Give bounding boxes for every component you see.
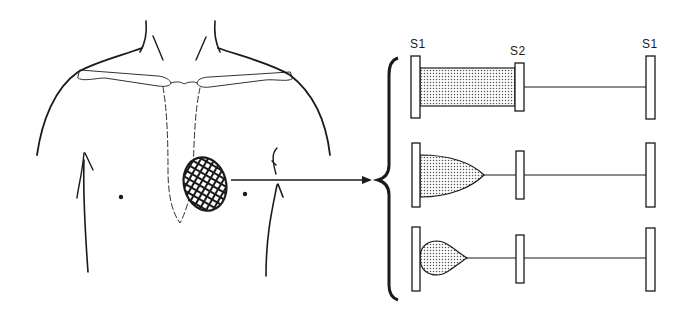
s1-bar-next <box>646 56 655 119</box>
murmur-decrescendo-bullet <box>420 155 484 197</box>
torso-left-side <box>84 160 88 272</box>
auscultation-area-hatched <box>178 152 233 215</box>
s1-bar <box>412 227 420 291</box>
s2-bar <box>515 63 524 111</box>
s1-bar-next <box>646 228 655 291</box>
torso-outline <box>37 21 330 276</box>
s1-bar-next <box>646 143 655 207</box>
murmur-teardrop <box>420 241 467 275</box>
clavicle-left <box>78 70 171 86</box>
s2-bar <box>516 235 524 283</box>
neck-inner-right <box>196 37 206 60</box>
torso-right-side <box>266 184 283 276</box>
shoulder-right <box>218 48 330 155</box>
torso-left-fold <box>77 153 93 198</box>
s2-bar <box>516 151 524 199</box>
torso-right-fold <box>272 148 277 174</box>
neck-inner-left <box>153 36 163 60</box>
s1-bar <box>412 143 420 207</box>
neck-left-line <box>140 21 146 52</box>
sternal-notch <box>171 82 197 84</box>
shoulder-left <box>37 48 142 155</box>
curly-brace <box>378 58 398 300</box>
murmur-holosystolic <box>420 68 515 106</box>
clavicle-right <box>197 72 292 87</box>
diagram-canvas <box>0 0 687 318</box>
arrow-to-phonocardiogram <box>231 176 372 184</box>
phono-row-3 <box>412 227 655 291</box>
neck-right-line <box>215 21 220 52</box>
nipple-right <box>243 192 247 196</box>
s1-bar <box>411 56 420 118</box>
phono-row-2 <box>412 143 655 207</box>
nipple-left <box>119 195 123 199</box>
phono-row-1 <box>411 56 655 119</box>
